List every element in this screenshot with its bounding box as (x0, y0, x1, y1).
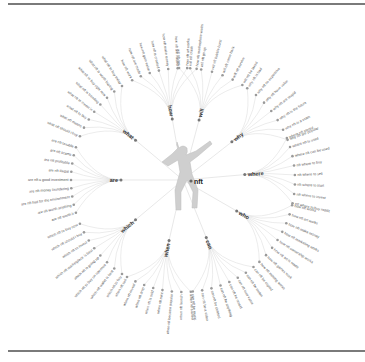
leaf-label: will nft bubble burst (211, 39, 223, 70)
leaf-label: are nft a good investment (28, 178, 69, 182)
branch-label: when (162, 242, 171, 259)
leaf-item[interactable]: are nft a good investment (28, 178, 72, 182)
leaf-label: are nft worth it (51, 212, 74, 222)
leaf-label: when nft is sold (144, 290, 154, 315)
leaf-label: nft where to start (297, 183, 324, 188)
leaf-label: nft where to invest (296, 192, 325, 200)
leaf-item[interactable]: how nft make money (161, 33, 169, 70)
branch-how[interactable]: howhow nft workhow nft are madehow nft g… (120, 24, 204, 121)
leaf-item[interactable]: when nft mint (156, 289, 164, 314)
leaf-item[interactable]: nft where to invest (293, 192, 326, 200)
branch-where[interactable]: wherewhere nft storedwhere nft is usedwh… (243, 126, 330, 214)
center-keyword: nft (194, 178, 204, 185)
leaf-item[interactable]: nft where to buy (293, 160, 323, 167)
leaf-label: will nft crash (189, 46, 194, 66)
leaf-item[interactable]: when nft started (189, 290, 195, 319)
leaf-item[interactable]: when nft drop (134, 284, 145, 309)
leaf-item[interactable]: are nft worth it (51, 211, 77, 222)
leaf-item[interactable]: when nft launch (179, 291, 183, 320)
leaf-item[interactable]: which nft wallet is best (89, 267, 115, 300)
leaf-label: what nft to buy right now (77, 66, 107, 98)
leaf-item[interactable]: when nft became popular (166, 290, 174, 334)
leaf-label: when nft started (189, 294, 195, 320)
leaf-label: how nft gain value (138, 42, 150, 71)
branch-will[interactable]: willwill nft lastwill nft crashwill nft … (176, 39, 258, 121)
question-wheel-diagram: nft howhow nft workhow nft are madehow n… (0, 0, 365, 362)
leaf-label: nft where to sell (297, 172, 323, 177)
leaf-label: when nft drop (134, 287, 145, 309)
leaf-label: how nft art works (291, 213, 318, 225)
branch-can[interactable]: cancan nft be copiedcan nft be stolencan… (191, 236, 274, 321)
branch-label: where (246, 170, 263, 177)
leaf-label: can nft be deleted (210, 290, 221, 319)
leaf-label: where nft can be used (294, 146, 329, 157)
leaf-label: are nft illegal (48, 168, 69, 174)
branch-what[interactable]: whatwhat nft should i buywhat nft meansw… (47, 55, 137, 141)
leaf-item[interactable]: are nft taxable (51, 138, 77, 148)
branch-label: how (167, 105, 175, 118)
leaf-label: when nft mint (156, 292, 164, 314)
leaf-item[interactable]: are nft money laundering (29, 187, 73, 194)
branch-label: will (197, 107, 205, 119)
figure-icon (162, 141, 212, 210)
leaf-item[interactable]: how nft is created (150, 40, 160, 72)
leaf-item[interactable]: can nft be a video (200, 289, 209, 321)
leaf-label: when nft reveal (122, 283, 136, 307)
leaf-item[interactable]: where nft can be used (291, 146, 330, 157)
leaf-item[interactable]: will nft survive (231, 57, 245, 81)
leaf-item[interactable]: are nft scams (50, 148, 75, 157)
leaf-label: can nft be a video (200, 293, 209, 322)
leaf-label: how nft make money (161, 33, 169, 67)
leaf-label: are nft taxable (51, 138, 74, 148)
leaf-item[interactable]: will nft crash (189, 46, 194, 70)
leaf-label: will nft survive (232, 57, 246, 79)
leaf-item[interactable]: will nft bubble burst (211, 39, 223, 73)
branch-when[interactable]: whenwhen nft startedwhen nft launchwhen … (114, 239, 194, 334)
leaf-item[interactable]: will nft last (176, 49, 181, 69)
leaf-label: when nft launch (179, 294, 183, 319)
leaf-item[interactable]: nft where to start (294, 183, 325, 188)
leaf-item[interactable]: when nft is sold (144, 287, 154, 315)
leaf-label: can nft be anything (219, 287, 233, 317)
leaf-item[interactable]: are nft profitable (44, 157, 74, 165)
leaf-item[interactable]: nft where to sell (294, 172, 323, 177)
leaf-item[interactable]: how nft work (120, 59, 134, 81)
leaf-label: are nft money laundering (29, 187, 69, 194)
leaf-item[interactable]: what nft is worth buying (88, 59, 116, 93)
branch-which[interactable]: whichwhich nft to buywhich nft wallet is… (47, 218, 137, 300)
leaf-item[interactable]: can nft be deleted (210, 287, 221, 319)
branches: howhow nft workhow nft are madehow nft g… (21, 24, 330, 335)
leaf-item[interactable]: are nft illegal (48, 168, 72, 174)
leaf-label: when nft became popular (166, 293, 174, 334)
branch-label: which (119, 219, 136, 235)
branch-label: are (110, 177, 118, 183)
leaf-item[interactable]: will nft come back (221, 46, 235, 77)
leaf-label: will nft last (176, 49, 181, 66)
leaf-label: how nft work (120, 59, 133, 79)
leaf-label: will nft come back (222, 46, 236, 74)
leaf-label: how nft is created (150, 40, 160, 68)
leaf-label: are nft scams (50, 148, 72, 157)
leaf-label: are nft profitable (44, 157, 70, 165)
leaf-label: nft where to buy (296, 160, 322, 167)
branch-label: why (232, 130, 246, 143)
